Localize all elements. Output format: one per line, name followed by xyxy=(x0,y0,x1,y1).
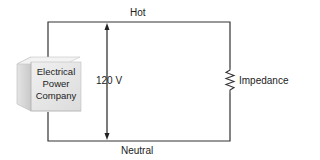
impedance-resistor-icon xyxy=(226,68,234,93)
voltage-label: 120 V xyxy=(96,76,122,86)
power-company-line-2: Power xyxy=(31,78,81,90)
neutral-label: Neutral xyxy=(121,146,153,156)
power-company-line-3: Company xyxy=(31,90,81,102)
hot-label: Hot xyxy=(130,8,146,18)
impedance-label: Impedance xyxy=(239,76,288,86)
power-company-line-1: Electrical xyxy=(31,66,81,78)
hot-wire xyxy=(48,22,230,68)
power-company-label: Electrical Power Company xyxy=(31,66,81,102)
